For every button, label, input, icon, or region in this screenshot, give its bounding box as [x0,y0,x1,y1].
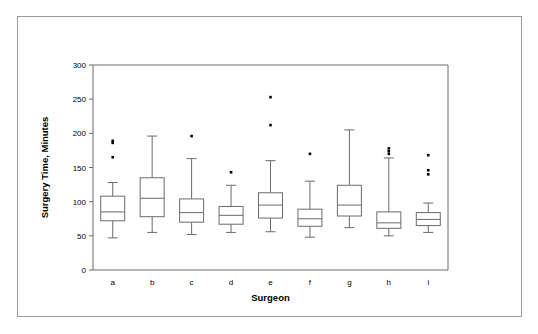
box-g [337,185,361,216]
boxplot-a [101,140,125,238]
boxplot-chart: 050100150200250300Surgery Time, Minutesa… [0,0,538,334]
box-h [377,212,401,228]
outlier-h-0 [388,147,391,150]
x-axis-tick-label-i: i [427,278,429,287]
x-axis-tick-label-e: e [268,278,273,287]
x-axis-tick-label-d: d [229,278,233,287]
x-axis-tick-label-a: a [110,278,115,287]
y-axis-tick-label: 200 [73,129,87,138]
outlier-a-1 [111,142,114,145]
y-axis-tick-label: 150 [73,164,87,173]
outlier-h-2 [388,153,391,156]
x-axis-title: Surgeon [251,292,290,303]
boxplot-h [377,147,401,236]
box-c [180,199,204,222]
boxplot-b [140,136,164,232]
outlier-f-0 [309,153,312,156]
outlier-e-1 [269,124,272,127]
boxplot-f [298,153,322,238]
outlier-i-1 [427,169,430,172]
outlier-a-2 [111,156,114,159]
outlier-c-0 [190,135,193,138]
y-axis-tick-label: 250 [73,95,87,104]
boxplot-g [337,130,361,228]
x-axis-tick-label-h: h [387,278,391,287]
box-f [298,209,322,226]
figure-root: 050100150200250300Surgery Time, Minutesa… [0,0,538,334]
x-axis-tick-label-c: c [190,278,194,287]
y-axis-tick-label: 50 [77,232,86,241]
boxplot-c [180,135,204,235]
y-axis-title: Surgery Time, Minutes [39,117,50,219]
outlier-d-0 [230,171,233,174]
y-axis-tick-label: 100 [73,198,87,207]
box-b [140,178,164,217]
box-a [101,196,125,221]
boxplot-i [416,154,440,233]
x-axis-tick-label-g: g [347,278,351,287]
boxplot-d [219,171,243,232]
x-axis-tick-label-b: b [150,278,155,287]
outlier-e-0 [269,96,272,99]
y-axis-tick-label: 300 [73,61,87,70]
x-axis-tick-label-f: f [309,278,312,287]
y-axis-tick-label: 0 [82,266,87,275]
outlier-i-0 [427,154,430,157]
boxplot-e [259,96,283,232]
outlier-i-2 [427,173,430,176]
outlier-h-1 [388,150,391,153]
